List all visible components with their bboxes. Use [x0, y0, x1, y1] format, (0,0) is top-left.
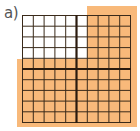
hundred-grid	[22, 15, 131, 123]
part-label: a)	[4, 6, 18, 21]
grid-lines	[22, 15, 131, 123]
